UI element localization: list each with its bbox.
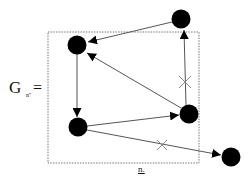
edge-d-to-b xyxy=(184,30,186,105)
node-d xyxy=(180,105,199,124)
node-b xyxy=(172,10,191,29)
node-c xyxy=(69,118,88,137)
edge-c-to-e xyxy=(87,130,221,155)
edge-c-to-d xyxy=(87,115,179,126)
bottom-caption: n. xyxy=(138,164,145,174)
graph-symbol-label: G xyxy=(9,78,21,98)
edge-d-to-a xyxy=(87,53,181,108)
equals-sign: = xyxy=(33,79,42,97)
node-e xyxy=(222,148,241,167)
graph-subscript-label: n'' xyxy=(26,92,31,98)
node-a xyxy=(68,36,87,55)
